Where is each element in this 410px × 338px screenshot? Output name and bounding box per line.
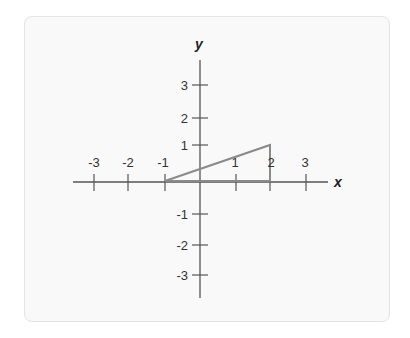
x-axis-label: x — [333, 174, 343, 190]
x-tick-label: 1 — [231, 155, 238, 170]
y-tick-label: 3 — [181, 78, 188, 93]
y-axis-label: y — [194, 36, 204, 52]
x-tick-label: -1 — [157, 155, 169, 170]
x-tick-label: 2 — [267, 155, 274, 170]
x-tick-label: 3 — [301, 155, 308, 170]
x-tick-label: -3 — [88, 155, 100, 170]
y-tick-label: -3 — [176, 268, 188, 283]
y-tick-label: -2 — [176, 238, 188, 253]
x-tick-label: -2 — [122, 155, 134, 170]
coordinate-plane: -3 -2 -1 1 2 3 3 2 1 -1 -2 -3 x y — [0, 0, 410, 338]
y-tick-label: -1 — [176, 207, 188, 222]
y-tick-label: 2 — [181, 111, 188, 126]
y-tick-label: 1 — [181, 138, 188, 153]
